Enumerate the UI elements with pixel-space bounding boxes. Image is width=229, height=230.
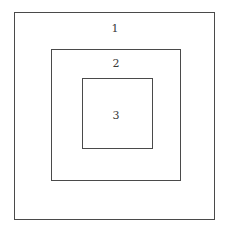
region-2-label: 2 [106, 58, 126, 70]
region-1-label: 1 [105, 23, 125, 35]
region-3-label: 3 [106, 110, 126, 122]
